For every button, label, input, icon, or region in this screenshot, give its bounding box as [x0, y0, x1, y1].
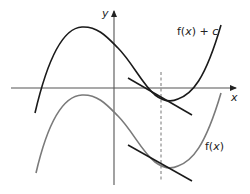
- diagram-canvas: y x f(x) + c f(x): [0, 0, 250, 194]
- tangent-line-f: [128, 145, 192, 181]
- curve-label-f: f(x): [205, 140, 224, 153]
- x-axis-label: x: [230, 91, 238, 104]
- y-axis-label: y: [101, 7, 109, 20]
- curve-f-plus-c: [35, 25, 221, 113]
- curve-label-f-plus-c: f(x) + c: [177, 25, 218, 38]
- curve-f: [36, 93, 221, 173]
